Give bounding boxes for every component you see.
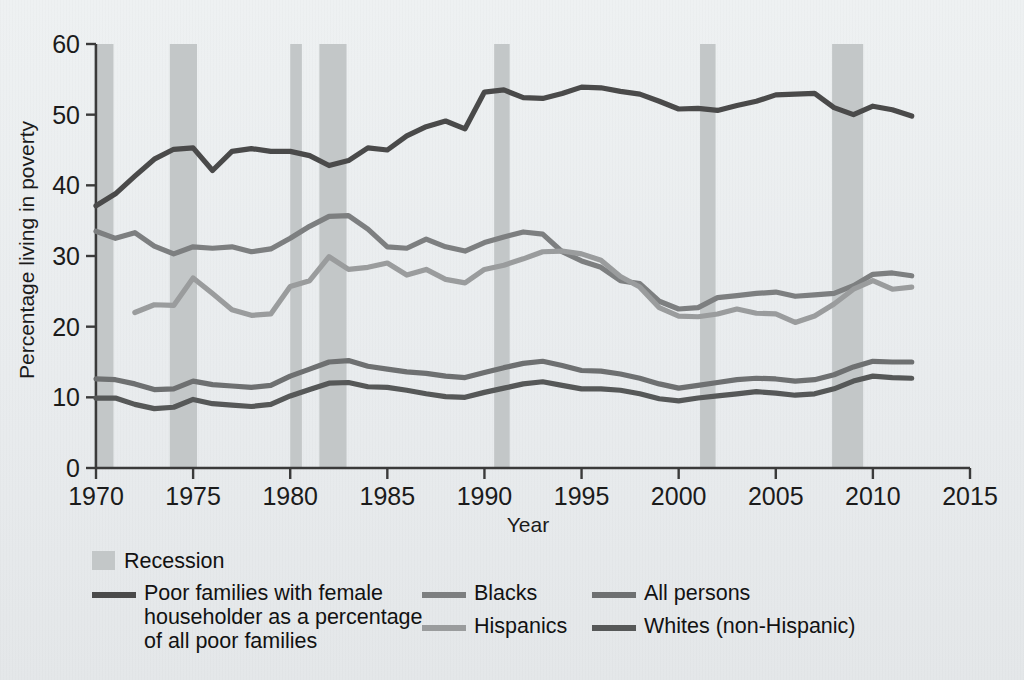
legend-label-whites: Whites (non-Hispanic) — [644, 614, 855, 638]
legend-label-poor-families-line2: householder as a percentage — [144, 605, 423, 629]
legend-recession-label: Recession — [124, 549, 224, 573]
x-tick-label: 1970 — [68, 482, 124, 510]
y-tick-label: 10 — [52, 383, 80, 411]
x-tick-label: 1990 — [457, 482, 513, 510]
x-tick-label: 2000 — [651, 482, 707, 510]
poverty-line-chart-figure: 0102030405060 19701975198019851990199520… — [0, 0, 1024, 680]
legend-label-poor-families-line1: Poor families with female — [144, 581, 383, 605]
x-axis-ticks: 1970197519801985199019952000200520102015 — [68, 468, 998, 510]
y-tick-label: 40 — [52, 171, 80, 199]
legend-recession-swatch — [92, 551, 115, 570]
x-tick-label: 1980 — [262, 482, 318, 510]
y-tick-label: 30 — [52, 242, 80, 270]
y-tick-label: 50 — [52, 101, 80, 129]
legend-swatch-hispanics — [422, 625, 466, 631]
legend-label-blacks: Blacks — [474, 581, 537, 605]
x-tick-label: 1975 — [165, 482, 221, 510]
y-axis-title: Percentage living in poverty — [15, 121, 38, 379]
y-axis-ticks: 0102030405060 — [52, 30, 96, 482]
x-axis-title: Year — [507, 513, 549, 536]
y-tick-label: 20 — [52, 313, 80, 341]
series-line — [135, 251, 912, 322]
x-tick-label: 2010 — [845, 482, 901, 510]
y-tick-label: 0 — [66, 454, 80, 482]
legend-swatch-all-persons — [592, 592, 636, 598]
y-tick-label: 60 — [52, 30, 80, 58]
recession-band — [290, 44, 302, 468]
legend-label-hispanics: Hispanics — [474, 614, 567, 638]
x-tick-label: 1985 — [360, 482, 416, 510]
x-tick-label: 2005 — [748, 482, 804, 510]
legend-label-all-persons: All persons — [644, 581, 750, 605]
legend-swatch-blacks — [422, 592, 466, 598]
legend-swatch-poor-families — [92, 592, 136, 598]
recession-band — [319, 44, 346, 468]
legend-label-poor-families-line3: of all poor families — [144, 629, 317, 653]
legend-group: Recession Poor families with female hous… — [92, 549, 855, 653]
legend-swatch-whites — [592, 625, 636, 631]
x-tick-label: 1995 — [554, 482, 610, 510]
recession-band — [494, 44, 510, 468]
chart-canvas: 0102030405060 19701975198019851990199520… — [0, 0, 1024, 680]
x-tick-label: 2015 — [942, 482, 998, 510]
